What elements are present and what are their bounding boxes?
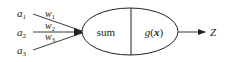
sum-label: sum bbox=[97, 26, 116, 38]
input-label-a2: a2 bbox=[17, 26, 27, 40]
neuron-diagram: a1 a2 a3 w1 w2 w3 sum g(x) Z bbox=[0, 0, 228, 62]
output-label-z: Z bbox=[210, 26, 217, 38]
input-label-a3: a3 bbox=[17, 44, 27, 58]
weight-label-w3: w3 bbox=[45, 31, 55, 43]
input-label-a1: a1 bbox=[17, 7, 27, 21]
weight-label-w1: w1 bbox=[45, 8, 55, 20]
activation-label: g(x) bbox=[145, 26, 164, 39]
